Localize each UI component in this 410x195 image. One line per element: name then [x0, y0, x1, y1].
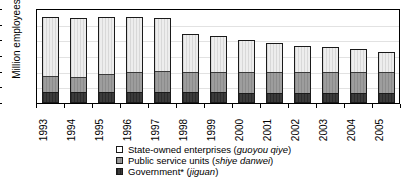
- x-label-slot: 1995: [92, 107, 120, 141]
- x-axis-labels: 1993199419951996199719981999200020012002…: [36, 107, 400, 141]
- stacked-bar[interactable]: [98, 17, 115, 103]
- x-label-slot: 1994: [64, 107, 92, 141]
- bar-segment-psu: [43, 76, 58, 92]
- x-tick-label: 2004: [347, 119, 369, 141]
- x-tick-label: 1995: [95, 119, 117, 141]
- x-tick-label: 2001: [263, 119, 285, 141]
- x-label-slot: 1996: [120, 107, 148, 141]
- bar-segment-psu: [99, 74, 114, 92]
- bar-group: [36, 9, 400, 103]
- bar-slot: [288, 9, 316, 103]
- bar-segment-psu: [127, 72, 142, 92]
- stacked-bar[interactable]: [266, 43, 283, 103]
- bar-segment-gov: [43, 92, 58, 102]
- x-label-slot: 1993: [36, 107, 64, 141]
- x-tick-label: 2000: [235, 119, 257, 141]
- x-label-slot: 1999: [204, 107, 232, 141]
- stacked-bar[interactable]: [322, 47, 339, 103]
- x-label-slot: 2005: [372, 107, 400, 141]
- x-tick-label: 1998: [179, 119, 201, 141]
- stacked-bar[interactable]: [350, 49, 367, 103]
- bar-segment-soe: [43, 18, 58, 76]
- bar-segment-soe: [211, 37, 226, 71]
- bar-slot: [344, 9, 372, 103]
- bar-segment-psu: [267, 72, 282, 93]
- x-tick-label: 2005: [375, 119, 397, 141]
- x-tick-mark: [400, 104, 401, 108]
- x-label-slot: 2003: [316, 107, 344, 141]
- legend-item[interactable]: Government* (jiguan): [116, 166, 291, 177]
- bar-segment-soe: [239, 41, 254, 72]
- stacked-bar[interactable]: [210, 36, 227, 103]
- bar-segment-psu: [295, 72, 310, 93]
- legend-item[interactable]: State-owned enterprises (guoyou qiye): [116, 144, 291, 155]
- x-label-slot: 1998: [176, 107, 204, 141]
- stacked-bar[interactable]: [294, 46, 311, 103]
- bar-segment-soe: [183, 35, 198, 71]
- bar-segment-psu: [211, 72, 226, 93]
- y-tick-mark: [0, 103, 2, 104]
- legend-item[interactable]: Public service units (shiye danwei): [116, 155, 291, 166]
- x-tick-label: 1994: [67, 119, 89, 141]
- bar-segment-gov: [211, 92, 226, 102]
- chart-figure: Million employees 020406080100120 199319…: [0, 0, 410, 195]
- chart-legend: State-owned enterprises (guoyou qiye)Pub…: [116, 144, 291, 177]
- y-tick-mark: [0, 25, 2, 26]
- stacked-bar[interactable]: [378, 52, 395, 103]
- bar-slot: [372, 9, 400, 103]
- legend-label: Public service units (shiye danwei): [128, 155, 273, 166]
- bar-segment-psu: [155, 71, 170, 92]
- x-tick-label: 1999: [207, 119, 229, 141]
- stacked-bar[interactable]: [238, 40, 255, 103]
- bar-slot: [232, 9, 260, 103]
- x-label-slot: 2002: [288, 107, 316, 141]
- x-tick-label: 2003: [319, 119, 341, 141]
- bar-segment-gov: [239, 93, 254, 102]
- bar-segment-soe: [267, 44, 282, 71]
- y-tick-mark: [0, 72, 2, 73]
- bar-segment-psu: [351, 72, 366, 93]
- stacked-bar[interactable]: [42, 17, 59, 103]
- bar-slot: [148, 9, 176, 103]
- stacked-bar[interactable]: [126, 17, 143, 103]
- legend-swatch-psu: [116, 157, 123, 164]
- bar-segment-soe: [71, 19, 86, 76]
- bar-slot: [64, 9, 92, 103]
- bar-slot: [176, 9, 204, 103]
- y-tick-mark: [0, 56, 2, 57]
- y-tick-mark: [0, 40, 2, 41]
- y-tick-mark: [0, 87, 2, 88]
- bar-segment-soe: [155, 19, 170, 71]
- legend-label: State-owned enterprises (guoyou qiye): [128, 144, 291, 155]
- bar-segment-gov: [351, 93, 366, 102]
- legend-swatch-gov: [116, 168, 123, 175]
- bar-segment-gov: [127, 92, 142, 102]
- x-tick-label: 1996: [123, 119, 145, 141]
- bar-segment-soe: [351, 50, 366, 72]
- bar-slot: [316, 9, 344, 103]
- bar-segment-psu: [183, 72, 198, 93]
- stacked-bar[interactable]: [154, 18, 171, 103]
- bar-segment-soe: [323, 48, 338, 71]
- bar-segment-gov: [267, 93, 282, 102]
- bar-segment-soe: [295, 47, 310, 72]
- legend-swatch-soe: [116, 146, 123, 153]
- bar-segment-psu: [71, 77, 86, 92]
- bar-slot: [204, 9, 232, 103]
- bar-segment-psu: [239, 72, 254, 93]
- bar-segment-gov: [379, 93, 394, 102]
- x-tick-label: 1997: [151, 119, 173, 141]
- x-label-slot: 2004: [344, 107, 372, 141]
- bar-slot: [120, 9, 148, 103]
- x-tick-label: 1993: [39, 119, 61, 141]
- stacked-bar[interactable]: [70, 18, 87, 103]
- bar-segment-psu: [323, 72, 338, 93]
- bar-segment-soe: [127, 18, 142, 72]
- x-label-slot: 2001: [260, 107, 288, 141]
- x-tick-label: 2002: [291, 119, 313, 141]
- bar-segment-soe: [99, 18, 114, 75]
- bar-slot: [92, 9, 120, 103]
- bar-segment-gov: [155, 92, 170, 102]
- bar-slot: [260, 9, 288, 103]
- stacked-bar[interactable]: [182, 34, 199, 103]
